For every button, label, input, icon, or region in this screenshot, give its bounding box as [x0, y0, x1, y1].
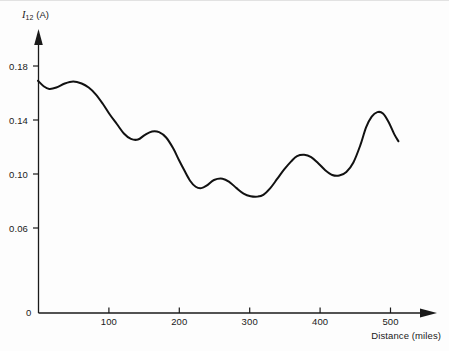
- x-tick-label-200: 200: [159, 316, 199, 327]
- y-axis-ticks: [33, 66, 39, 228]
- x-axis-title: Distance (miles): [371, 330, 441, 341]
- x-tick-label-500: 500: [371, 316, 411, 327]
- x-tick-label-400: 400: [300, 316, 340, 327]
- x-axis-arrowhead: [420, 308, 437, 317]
- y-axis-arrowhead: [34, 29, 43, 45]
- x-axis-ticks: [109, 308, 391, 314]
- chart-figure: I12 (A) 0.18 0.14 0.10 0.06 0: [0, 0, 449, 351]
- y-tick-label-0.10: 0.10: [0, 169, 28, 180]
- x-tick-label-0: 0: [26, 307, 31, 318]
- data-series-line: [38, 81, 398, 197]
- x-tick-label-300: 300: [230, 316, 270, 327]
- x-tick-label-100: 100: [89, 316, 129, 327]
- y-tick-label-0.14: 0.14: [0, 115, 28, 126]
- plot-area: [0, 0, 449, 351]
- y-tick-label-0.18: 0.18: [0, 61, 28, 72]
- y-tick-label-0.06: 0.06: [0, 223, 28, 234]
